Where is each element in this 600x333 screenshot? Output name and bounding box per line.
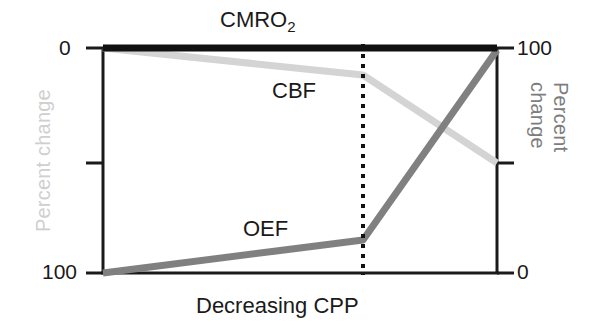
right-axis-tick-label-0: 0 [517, 261, 529, 282]
left-axis-tick-label-0: 0 [59, 37, 71, 58]
series-label-cmro2-subscript: 2 [287, 18, 295, 35]
chart-plot-area [0, 0, 600, 333]
x-axis-title: Decreasing CPP [196, 295, 359, 317]
right-axis-title: Percent change [526, 82, 572, 152]
series-label-cmro2: CMRO2 [220, 9, 296, 31]
series-label-cbf: CBF [272, 80, 316, 102]
physiology-line-chart: 0 100 100 0 Percent change Percent chang… [0, 0, 600, 333]
series-line-cbf [103, 48, 497, 163]
left-axis-title: Percent change [32, 89, 55, 232]
series-label-oef: OEF [243, 218, 288, 240]
right-axis-tick-label-100: 100 [517, 37, 552, 58]
left-axis-tick-label-100: 100 [42, 261, 77, 282]
series-label-cmro2-base: CMRO [220, 7, 287, 32]
